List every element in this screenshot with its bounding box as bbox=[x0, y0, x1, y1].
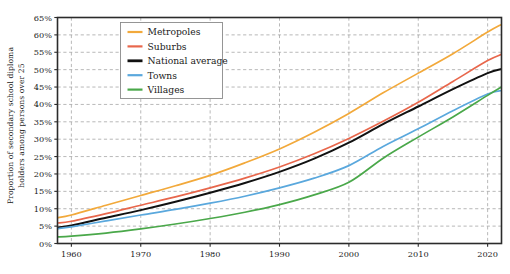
y-tick-label: 15% bbox=[34, 186, 52, 196]
y-tick-label: 35% bbox=[34, 117, 52, 127]
line-chart-plot: 0%5%10%15%20%25%30%35%40%45%50%55%60%65%… bbox=[0, 0, 510, 274]
x-tick-label: 1960 bbox=[61, 249, 82, 259]
y-tick-label: 0% bbox=[39, 239, 52, 249]
y-axis-title-line1: Proportion of secondary school diploma bbox=[7, 46, 16, 203]
y-tick-label: 25% bbox=[34, 152, 52, 162]
legend-label-villages: Villages bbox=[147, 84, 185, 95]
x-tick-label: 2000 bbox=[338, 249, 359, 259]
y-tick-label: 30% bbox=[34, 134, 52, 144]
x-tick-label: 2010 bbox=[408, 249, 429, 259]
y-tick-labels: 0%5%10%15%20%25%30%35%40%45%50%55%60%65% bbox=[34, 13, 52, 249]
chart-figure: Proportion of secondary school diploma h… bbox=[0, 0, 510, 274]
y-axis-title: Proportion of secondary school diploma h… bbox=[0, 0, 34, 250]
y-tick-label: 50% bbox=[34, 65, 52, 75]
x-tick-label: 2020 bbox=[477, 249, 498, 259]
y-tick-label: 45% bbox=[34, 82, 52, 92]
legend-label-metropoles: Metropoles bbox=[148, 26, 201, 37]
x-tick-label: 1980 bbox=[200, 249, 221, 259]
y-tick-label: 65% bbox=[34, 13, 52, 23]
x-tick-label: 1970 bbox=[130, 249, 151, 259]
y-tick-label: 5% bbox=[39, 221, 52, 231]
legend-label-suburbs: Suburbs bbox=[148, 41, 187, 52]
y-tick-label: 40% bbox=[34, 99, 52, 109]
chart-legend: MetropolesSuburbsNational averageTownsVi… bbox=[121, 23, 228, 99]
y-tick-label: 55% bbox=[34, 47, 52, 57]
legend-label-towns: Towns bbox=[148, 70, 178, 81]
y-tick-label: 60% bbox=[34, 30, 52, 40]
x-tick-labels: 1960197019801990200020102020 bbox=[61, 249, 498, 259]
x-tick-label: 1990 bbox=[269, 249, 290, 259]
legend-label-national-average: National average bbox=[148, 55, 228, 66]
y-tick-label: 20% bbox=[34, 169, 52, 179]
y-tick-label: 10% bbox=[34, 204, 52, 214]
y-axis-title-line2: holders among persons over 25 bbox=[17, 46, 28, 203]
